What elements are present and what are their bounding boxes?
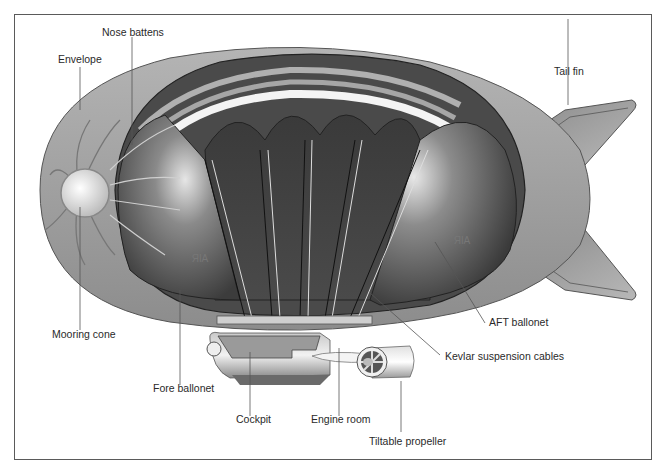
- label-mooring-cone: Mooring cone: [52, 328, 116, 340]
- mooring-cone: [61, 169, 109, 217]
- air-label-aft: AIR: [454, 235, 471, 246]
- label-cockpit: Cockpit: [236, 413, 271, 425]
- label-envelope: Envelope: [58, 53, 102, 65]
- label-tiltable-propeller: Tiltable propeller: [369, 435, 446, 447]
- label-nose-battens: Nose battens: [102, 26, 164, 38]
- label-engine-room: Engine room: [311, 413, 371, 425]
- label-tail-fin: Tail fin: [554, 65, 584, 77]
- air-label-fore: AIR: [192, 253, 209, 264]
- svg-text:AIR: AIR: [454, 235, 471, 246]
- svg-text:AIR: AIR: [192, 253, 209, 264]
- label-kevlar-suspension-cables: Kevlar suspension cables: [445, 350, 564, 362]
- label-aft-ballonet: AFT ballonet: [489, 316, 548, 328]
- label-fore-ballonet: Fore ballonet: [153, 382, 214, 394]
